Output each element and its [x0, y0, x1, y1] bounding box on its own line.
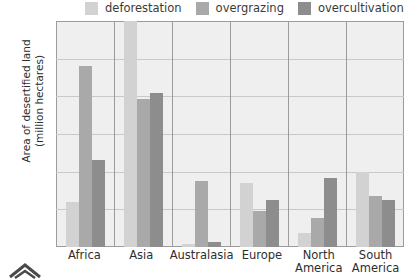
legend-swatch-overgrazing — [196, 2, 209, 15]
bar-overgrazing-asia — [137, 99, 150, 247]
bar-set — [230, 21, 288, 247]
bar-deforestation-europe — [240, 183, 253, 247]
y-axis-title-line2: (million hectares) — [33, 16, 46, 186]
bar-overcultivation-south-america — [382, 200, 395, 247]
x-axis-label: Australasia — [170, 249, 234, 279]
bar-group — [288, 21, 346, 247]
bar-group — [114, 21, 172, 247]
bar-overgrazing-africa — [79, 66, 92, 247]
x-axis-label-line: Africa — [56, 249, 113, 262]
bar-overcultivation-africa — [92, 160, 105, 247]
bar-overgrazing-north-america — [311, 218, 324, 247]
y-axis-title-line1: Area of desertified land — [20, 16, 33, 186]
bar-deforestation-australasia — [182, 244, 195, 247]
bar-group — [56, 21, 114, 247]
bar-deforestation-asia — [124, 21, 137, 247]
legend-entry-overgrazing: overgrazing — [196, 1, 284, 15]
legend-swatch-deforestation — [85, 2, 98, 15]
x-axis-label-line: America — [347, 262, 404, 275]
bar-overgrazing-australasia — [195, 181, 208, 247]
bar-group — [346, 21, 404, 247]
x-axis-label-line: Europe — [234, 249, 291, 262]
legend-entry-overcultivation: overcultivation — [298, 1, 404, 15]
bar-overcultivation-australasia — [208, 242, 221, 247]
bar-set — [172, 21, 230, 247]
bar-overcultivation-europe — [266, 200, 279, 247]
plot-area-wrapper: 050100150200250300 — [56, 21, 404, 247]
bar-deforestation-north-america — [298, 233, 311, 247]
y-axis-title: Area of desertified land (million hectar… — [20, 16, 46, 186]
bar-deforestation-south-america — [356, 172, 369, 247]
x-axis-label-line: America — [290, 262, 347, 275]
x-axis-label: Africa — [56, 249, 113, 279]
bar-group — [230, 21, 288, 247]
x-axis-label-line: Australasia — [170, 249, 234, 262]
roof-chevron-icon — [8, 262, 42, 279]
x-axis-label: SouthAmerica — [347, 249, 404, 279]
bar-overcultivation-north-america — [324, 178, 337, 247]
x-axis-label: Asia — [113, 249, 170, 279]
bar-group — [172, 21, 230, 247]
x-axis-labels: AfricaAsiaAustralasiaEuropeNorthAmericaS… — [56, 249, 404, 279]
x-axis-label-line: Asia — [113, 249, 170, 262]
bar-groups — [56, 21, 404, 247]
chart-root: deforestation overgrazing overcultivatio… — [0, 0, 408, 279]
legend-label-deforestation: deforestation — [105, 1, 182, 15]
legend-label-overgrazing: overgrazing — [216, 1, 284, 15]
x-axis-label: NorthAmerica — [290, 249, 347, 279]
x-axis-label-line: North — [290, 249, 347, 262]
bar-set — [114, 21, 172, 247]
legend-swatch-overcultivation — [298, 2, 311, 15]
bar-overgrazing-europe — [253, 211, 266, 247]
legend-label-overcultivation: overcultivation — [318, 1, 404, 15]
bar-deforestation-africa — [66, 202, 79, 247]
x-axis-label: Europe — [234, 249, 291, 279]
bar-set — [288, 21, 346, 247]
legend-entry-deforestation: deforestation — [85, 1, 182, 15]
bar-overcultivation-asia — [150, 93, 163, 247]
bar-set — [346, 21, 404, 247]
x-axis-label-line: South — [347, 249, 404, 262]
bar-set — [56, 21, 114, 247]
chart-legend: deforestation overgrazing overcultivatio… — [85, 0, 408, 16]
bar-overgrazing-south-america — [369, 196, 382, 247]
